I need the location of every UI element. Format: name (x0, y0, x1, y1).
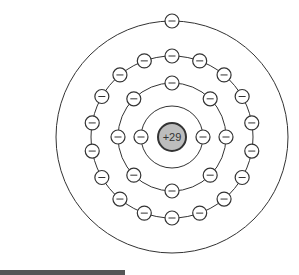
electron (245, 116, 259, 130)
electron (111, 130, 125, 144)
electron (217, 192, 231, 206)
bohr-model-diagram: +29 (0, 0, 299, 275)
electron (165, 211, 179, 225)
electron (127, 168, 141, 182)
bottom-bar (0, 270, 125, 275)
electron (85, 144, 99, 158)
electron (193, 54, 207, 68)
electron (85, 116, 99, 130)
electron (219, 130, 233, 144)
electron (203, 92, 217, 106)
electron (165, 184, 179, 198)
electron (203, 168, 217, 182)
electron (95, 90, 109, 104)
nucleus-charge-label: +29 (163, 131, 182, 143)
electron (165, 14, 179, 28)
electron (196, 130, 210, 144)
electron (193, 206, 207, 220)
electron (165, 76, 179, 90)
nucleus: +29 (158, 123, 186, 151)
electron (235, 171, 249, 185)
electron (113, 192, 127, 206)
electron (165, 49, 179, 63)
electron (95, 171, 109, 185)
electron (127, 92, 141, 106)
electron (113, 68, 127, 82)
electron (245, 144, 259, 158)
electron (235, 90, 249, 104)
electron (217, 68, 231, 82)
electron (137, 206, 151, 220)
electron (137, 54, 151, 68)
electron (134, 130, 148, 144)
